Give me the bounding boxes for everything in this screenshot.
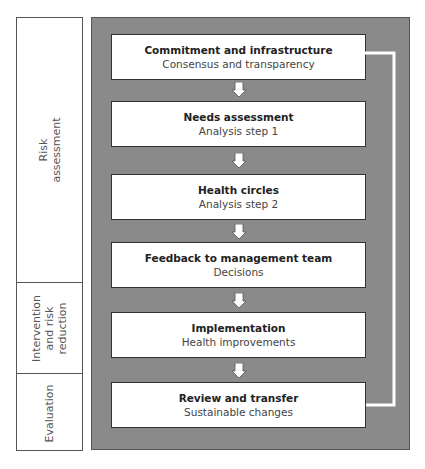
phase-column: Risk assessment Intervention and risk re… (16, 17, 83, 451)
feedback-loop-arrow-icon (92, 18, 411, 451)
phase-label: Risk assessment (37, 117, 63, 182)
phase-risk-assessment: Risk assessment (17, 18, 82, 282)
phase-intervention: Intervention and risk reduction (17, 282, 82, 373)
phase-label: Intervention and risk reduction (30, 294, 69, 361)
process-panel: Commitment and infrastructure Consensus … (91, 17, 410, 450)
phase-label: Evaluation (43, 384, 56, 442)
phase-evaluation: Evaluation (17, 373, 82, 452)
